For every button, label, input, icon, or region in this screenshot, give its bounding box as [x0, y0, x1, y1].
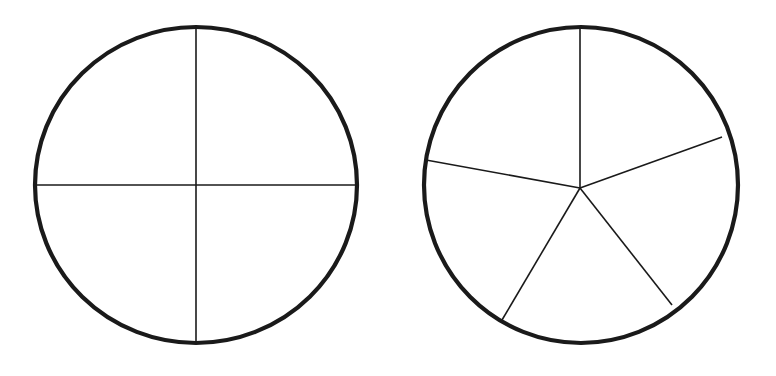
- circle-divided-into-fourths: [35, 27, 357, 343]
- figure-canvas: [0, 0, 776, 376]
- fraction-circles-figure: [0, 0, 776, 376]
- circle-divided-into-fifths-outline: [424, 27, 738, 343]
- circle-divided-into-fifths: [424, 27, 738, 343]
